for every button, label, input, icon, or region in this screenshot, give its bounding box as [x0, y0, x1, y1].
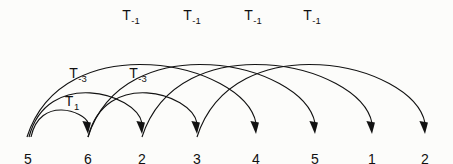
arc-label-subscript: -3 — [138, 73, 146, 84]
arc-label-base: T — [122, 7, 131, 23]
node-label: 2 — [413, 152, 437, 164]
arc-label-base: T — [129, 65, 138, 81]
node-label: 1 — [360, 152, 384, 164]
arc-label: T-3 — [108, 66, 168, 83]
node-label: 4 — [244, 152, 268, 164]
arrow-head — [419, 121, 428, 134]
arrow-head — [250, 121, 259, 134]
arc-label: T-1 — [162, 8, 222, 25]
node-label: 5 — [16, 152, 40, 164]
arrow-head — [309, 121, 318, 134]
arc-label-subscript: -1 — [253, 15, 261, 26]
node-label: 6 — [76, 152, 100, 164]
arc-label-base: T — [69, 65, 78, 81]
arc-label-subscript: 1 — [74, 101, 79, 112]
arc-label-subscript: -1 — [131, 15, 139, 26]
arc-label: T-3 — [48, 66, 108, 83]
arc-label: T-1 — [282, 8, 342, 25]
arc-label-subscript: -3 — [78, 73, 86, 84]
arc-curve — [197, 64, 425, 137]
arc-label-base: T — [183, 7, 192, 23]
arc-label-base: T — [244, 7, 253, 23]
node-label: 5 — [303, 152, 327, 164]
arc-label-base: T — [65, 93, 74, 109]
arc-label-base: T — [303, 7, 312, 23]
node-label: 2 — [130, 152, 154, 164]
arrow-head — [366, 121, 375, 134]
arc-label: T-1 — [101, 8, 161, 25]
arc-label: T-1 — [223, 8, 283, 25]
node-label: 3 — [185, 152, 209, 164]
arc-diagram-figure: 56234512 T1T-3T-3T-1T-1T-1T-1 — [0, 0, 453, 164]
arc-label: T1 — [42, 94, 102, 111]
arc-label-subscript: -1 — [312, 15, 320, 26]
arc-label-subscript: -1 — [192, 15, 200, 26]
